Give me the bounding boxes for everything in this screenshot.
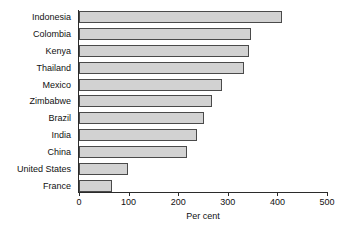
- bar: [79, 11, 282, 23]
- bar-chart: Indonesia Colombia Kenya Thailand Mexico…: [0, 0, 344, 233]
- x-axis-tick-mark: [228, 192, 229, 196]
- y-axis-tick-label: Thailand: [0, 62, 75, 74]
- bar: [79, 180, 112, 192]
- bar: [79, 45, 249, 57]
- x-axis-tick-mark: [129, 192, 130, 196]
- bar: [79, 163, 128, 175]
- bar: [79, 79, 222, 91]
- y-axis-tick-label: India: [0, 129, 75, 141]
- bar: [79, 95, 212, 107]
- bar-row: [79, 129, 327, 141]
- y-axis-tick-label: United States: [0, 163, 75, 175]
- y-axis-tick-label: Brazil: [0, 112, 75, 124]
- x-axis-tick-label: 300: [220, 197, 235, 207]
- y-axis-tick-label: Colombia: [0, 28, 75, 40]
- bar: [79, 112, 204, 124]
- bar: [79, 62, 244, 74]
- bar-row: [79, 146, 327, 158]
- bar-row: [79, 45, 327, 57]
- plot-area: [79, 11, 327, 192]
- bar-row: [79, 11, 327, 23]
- x-axis-title: Per cent: [79, 211, 327, 221]
- x-axis-tick-mark: [178, 192, 179, 196]
- x-axis-tick-mark: [277, 192, 278, 196]
- bar: [79, 28, 251, 40]
- y-axis-tick-label: China: [0, 146, 75, 158]
- bar: [79, 129, 197, 141]
- x-axis-tick-label: 500: [319, 197, 334, 207]
- bar-row: [79, 28, 327, 40]
- y-axis-tick-label: France: [0, 180, 75, 192]
- y-axis-tick-label: Zimbabwe: [0, 95, 75, 107]
- bar: [79, 146, 187, 158]
- bar-row: [79, 112, 327, 124]
- x-axis-tick-mark: [79, 192, 80, 196]
- y-axis-tick-label: Kenya: [0, 45, 75, 57]
- x-axis-tick-label: 200: [171, 197, 186, 207]
- bar-row: [79, 62, 327, 74]
- bar-row: [79, 180, 327, 192]
- x-axis-tick-mark: [327, 192, 328, 196]
- y-axis-category-labels: Indonesia Colombia Kenya Thailand Mexico…: [0, 11, 75, 192]
- y-axis-tick-label: Indonesia: [0, 11, 75, 23]
- bar-row: [79, 79, 327, 91]
- x-axis-tick-label: 0: [76, 197, 81, 207]
- bar-row: [79, 95, 327, 107]
- y-axis-tick-label: Mexico: [0, 79, 75, 91]
- x-axis-tick-labels: 0100200300400500: [79, 197, 327, 209]
- x-axis-ticks: [79, 192, 327, 196]
- bar-series: [79, 11, 327, 192]
- bar-row: [79, 163, 327, 175]
- x-axis-tick-label: 400: [270, 197, 285, 207]
- x-axis-tick-label: 100: [121, 197, 136, 207]
